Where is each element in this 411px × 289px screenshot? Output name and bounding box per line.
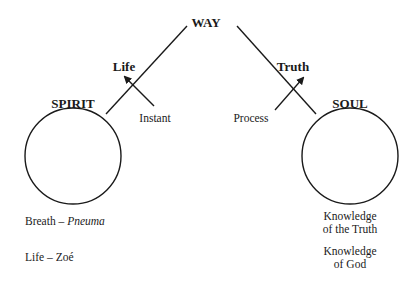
note-greek: Pneuma <box>67 215 105 227</box>
spirit-circle <box>25 108 121 204</box>
process-label: Process <box>233 113 268 125</box>
note-term: Life <box>25 251 44 263</box>
note-line: of God <box>323 258 376 271</box>
instant-label: Instant <box>139 113 170 125</box>
instant-arrow <box>125 77 154 106</box>
note-dash: – <box>47 251 53 263</box>
note-greek: Zoé <box>56 251 74 263</box>
note-line: of the Truth <box>323 223 377 236</box>
note-term: Breath <box>25 215 56 227</box>
truth-label: Truth <box>277 60 309 73</box>
life-label: Life <box>113 60 135 73</box>
note-line: Knowledge <box>323 245 376 258</box>
way-label: WAY <box>191 16 220 29</box>
spirit-note-life: Life – Zoé <box>25 252 74 264</box>
note-line: Knowledge <box>323 210 377 223</box>
note-dash: – <box>59 215 65 227</box>
spirit-note-breath: Breath – Pneuma <box>25 216 105 228</box>
spirit-label: SPIRIT <box>51 97 94 110</box>
soul-note-truth: Knowledge of the Truth <box>323 210 377 236</box>
soul-note-god: Knowledge of God <box>323 245 376 271</box>
soul-circle <box>302 108 398 204</box>
soul-label: SOUL <box>332 97 367 110</box>
